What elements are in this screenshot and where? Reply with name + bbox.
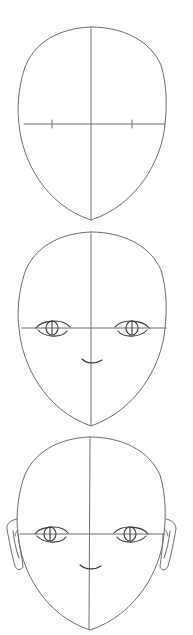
mouth bbox=[80, 565, 101, 569]
step-2-head bbox=[18, 232, 166, 426]
mouth bbox=[82, 359, 102, 363]
head-oval bbox=[18, 232, 166, 426]
face-drawing-diagram bbox=[0, 0, 193, 635]
step-1-head bbox=[18, 27, 166, 220]
right-ear bbox=[160, 519, 176, 570]
step-3-head bbox=[7, 437, 176, 630]
right-eye bbox=[114, 527, 148, 542]
left-eye bbox=[36, 321, 70, 336]
left-ear bbox=[7, 519, 23, 570]
left-eye bbox=[35, 527, 68, 542]
right-eye bbox=[115, 321, 149, 336]
